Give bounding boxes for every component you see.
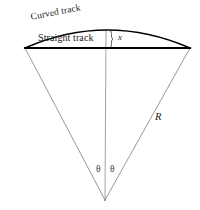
right-radius-line <box>105 48 190 200</box>
apex-vertex-point <box>104 199 106 201</box>
straight-track-label: Straight track <box>38 33 94 43</box>
angle-theta-left-label: θ <box>96 165 101 175</box>
angle-theta-right-label: θ <box>110 165 115 175</box>
left-radius-line <box>25 48 105 200</box>
figure-container: Curved track Straight track x R θ θ <box>0 0 200 210</box>
center-line <box>105 31 106 200</box>
sagitta-label: x <box>118 33 122 42</box>
radius-label: R <box>155 112 161 123</box>
sagitta-brace-icon <box>110 31 113 47</box>
sector-diagram <box>0 0 200 210</box>
